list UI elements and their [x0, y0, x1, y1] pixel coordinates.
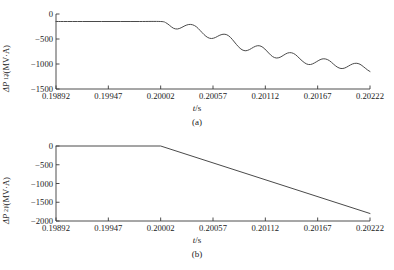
y-axis-label-b-subscript: 21 — [3, 206, 9, 212]
y-axis-label-a: ΔP12/(MV·A) — [2, 16, 11, 92]
y-tick-label: 0 — [49, 9, 53, 19]
x-tick-label: 0.20057 — [199, 91, 228, 101]
axes-a — [56, 14, 370, 89]
x-tick-label: 0.20002 — [147, 91, 175, 101]
panel-caption-b: (b) — [0, 249, 394, 259]
y-axis-label-a-symbol: ΔP — [1, 82, 11, 92]
chart-panel-a: 0.198920.199470.200020.200570.201120.201… — [0, 0, 394, 135]
x-tick-label: 0.20167 — [304, 223, 333, 233]
data-series-line-a — [56, 21, 370, 71]
x-axis-label-b: t/s — [0, 235, 394, 245]
x-tick-label: 0.20002 — [147, 223, 175, 233]
x-tick-label: 0.20222 — [356, 223, 384, 233]
y-axis-label-b-symbol: ΔP — [1, 214, 11, 224]
y-axis-label-a-units: /(MV·A) — [1, 45, 11, 76]
y-axis-label-b-units: /(MV·A) — [1, 177, 11, 208]
x-axis-label-b-units: /s — [195, 235, 201, 245]
y-tick-label: −1000 — [31, 179, 53, 189]
chart-svg-b: 0.198920.199470.200020.200570.201120.201… — [0, 132, 394, 232]
x-axis-label-a: t/s — [0, 103, 394, 113]
y-tick-label: 0 — [49, 141, 53, 151]
tick-labels-a: 0.198920.199470.200020.200570.201120.201… — [31, 9, 384, 100]
axes-b — [56, 146, 370, 221]
y-tick-label: −1500 — [31, 197, 53, 207]
chart-svg-a: 0.198920.199470.200020.200570.201120.201… — [0, 0, 394, 100]
y-axis-label-a-subscript: 12 — [3, 74, 9, 80]
x-axis-label-a-units: /s — [195, 103, 201, 113]
y-tick-label: −500 — [35, 34, 53, 44]
y-tick-label: −500 — [35, 160, 53, 170]
y-axis-label-b: ΔP21/(MV·A) — [2, 148, 11, 224]
chart-panel-b: 0.198920.199470.200020.200570.201120.201… — [0, 132, 394, 270]
y-tick-label: −1000 — [31, 59, 53, 69]
y-tick-label: −1500 — [31, 84, 53, 94]
y-tick-label: −2000 — [31, 216, 53, 226]
x-tick-label: 0.20057 — [199, 223, 228, 233]
x-tick-label: 0.20222 — [356, 91, 384, 101]
panel-caption-a: (a) — [0, 117, 394, 127]
plot-area-b: 0.198920.199470.200020.200570.201120.201… — [0, 132, 394, 232]
x-tick-label: 0.19947 — [94, 91, 123, 101]
data-series-line-b — [56, 146, 370, 214]
figure-page: 0.198920.199470.200020.200570.201120.201… — [0, 0, 394, 270]
x-tick-label: 0.19947 — [94, 223, 123, 233]
x-tick-label: 0.20167 — [304, 91, 333, 101]
tick-labels-b: 0.198920.199470.200020.200570.201120.201… — [31, 141, 384, 232]
x-tick-label: 0.20112 — [252, 91, 280, 101]
x-tick-label: 0.20112 — [252, 223, 280, 233]
plot-area-a: 0.198920.199470.200020.200570.201120.201… — [0, 0, 394, 100]
